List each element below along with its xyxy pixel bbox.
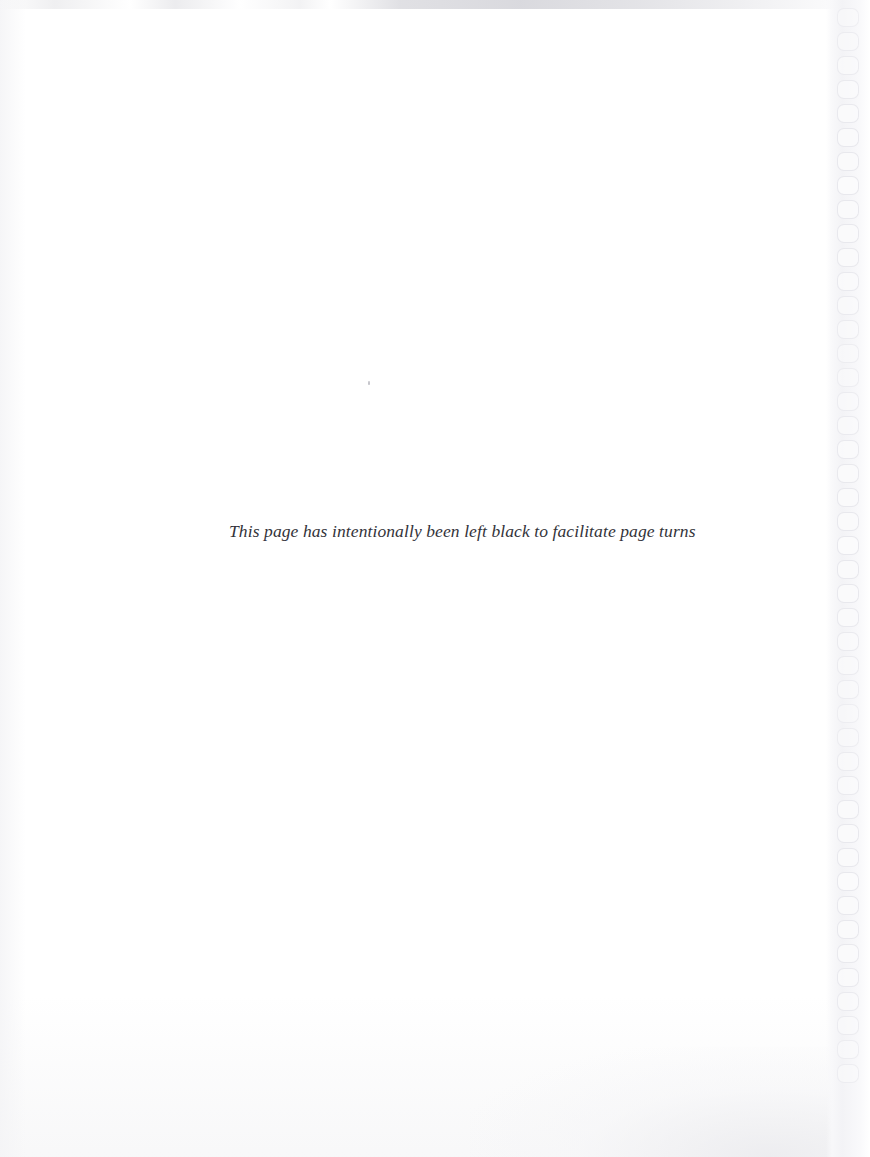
binding-hole [837,416,859,435]
binding-hole [837,440,859,459]
binding-hole [837,824,859,843]
binding-hole [837,8,859,27]
binding-hole [837,32,859,51]
binding-hole [837,1040,859,1059]
binding-hole [837,704,859,723]
binding-hole [837,776,859,795]
binding-hole [837,680,859,699]
binding-hole [837,176,859,195]
binding-hole [837,344,859,363]
binding-hole [837,512,859,531]
binding-hole [837,248,859,267]
binding-hole [837,464,859,483]
binding-hole [837,872,859,891]
binding-hole [837,488,859,507]
binding-hole [837,1016,859,1035]
binding-hole [837,560,859,579]
binding-hole [837,296,859,315]
top-bleedthrough-smudge [0,0,870,9]
binding-hole [837,800,859,819]
binding-hole [837,752,859,771]
binding-hole [837,392,859,411]
binding-hole [837,848,859,867]
binding-hole [837,272,859,291]
binding-hole [837,80,859,99]
binding-hole [837,896,859,915]
bottom-corner-wash [470,1047,870,1157]
binding-hole [837,1064,859,1083]
binding-hole [837,56,859,75]
binding-hole [837,128,859,147]
binding-hole [837,224,859,243]
binding-hole [837,536,859,555]
binding-hole [837,104,859,123]
binding-hole [837,968,859,987]
blank-page-notice: This page has intentionally been left bl… [229,519,639,543]
dust-speck-artifact [368,381,370,385]
binding-hole-column [826,0,870,1157]
binding-hole [837,584,859,603]
binding-hole [837,368,859,387]
binding-hole [837,608,859,627]
binding-hole [837,944,859,963]
binding-hole [837,728,859,747]
binding-hole [837,920,859,939]
binding-hole [837,200,859,219]
scanned-page: This page has intentionally been left bl… [0,0,870,1157]
binding-hole [837,992,859,1011]
binding-hole [837,320,859,339]
binding-hole [837,632,859,651]
binding-hole [837,152,859,171]
paper-tone-overlay [0,0,870,1157]
binding-hole [837,656,859,675]
